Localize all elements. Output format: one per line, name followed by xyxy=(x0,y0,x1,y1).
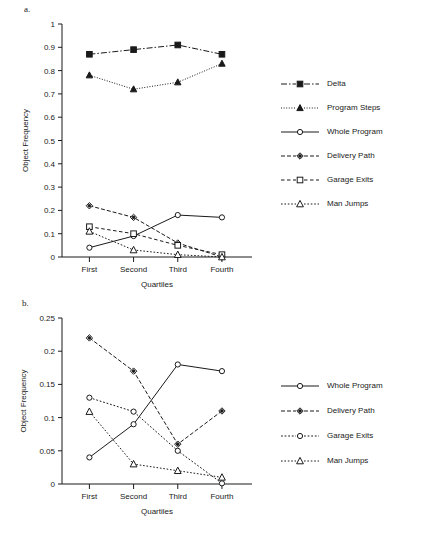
data-series xyxy=(86,60,225,92)
x-axis-title: Quartiles xyxy=(141,280,173,289)
y-axis-tick-label: 0.1 xyxy=(44,230,56,239)
y-axis-tick-label: 0.5 xyxy=(44,137,56,146)
square-filled-marker xyxy=(297,81,303,87)
circle-open-marker xyxy=(219,369,224,374)
y-axis-tick-label: 0.3 xyxy=(44,183,56,192)
y-axis-tick-label: 0.8 xyxy=(44,67,56,76)
data-series xyxy=(87,395,225,486)
y-axis-tick-label: 1 xyxy=(51,20,56,29)
legend-entry: Whole Program xyxy=(281,381,383,390)
series-line-path xyxy=(89,338,222,444)
data-series xyxy=(86,335,225,448)
square-filled-marker xyxy=(219,51,225,57)
x-axis-tick-label: Second xyxy=(120,492,147,501)
x-axis-tick-label: Fourth xyxy=(210,265,233,274)
y-axis-tick-label: 0.15 xyxy=(39,380,55,389)
circle-open-marker xyxy=(87,245,92,250)
legend-entry: Delivery Path xyxy=(281,151,375,160)
y-axis-tick-label: 0 xyxy=(51,480,56,489)
x-axis-tick-label: Fourth xyxy=(210,492,233,501)
series-line-path xyxy=(89,398,222,484)
circle-open-marker xyxy=(219,481,224,486)
diamond-filled-marker xyxy=(175,441,181,447)
legend-label: Delivery Path xyxy=(327,406,375,415)
triangle-open-marker xyxy=(130,246,137,252)
legend-label: Delta xyxy=(327,79,346,88)
square-open-marker xyxy=(131,231,137,237)
y-axis-tick-label: 0.2 xyxy=(44,206,56,215)
panel-b-label: b. xyxy=(22,298,29,308)
x-axis-tick-label: Second xyxy=(120,265,147,274)
circle-open-marker xyxy=(87,455,92,460)
legend-label: Man Jumps xyxy=(327,456,368,465)
triangle-filled-marker xyxy=(130,86,136,92)
y-axis-tick-label: 0.7 xyxy=(44,90,56,99)
triangle-open-marker xyxy=(297,200,304,206)
square-open-marker xyxy=(175,243,181,249)
data-series xyxy=(86,203,225,261)
legend-label: Program Steps xyxy=(327,103,380,112)
legend-label: Garage Exits xyxy=(327,431,373,440)
legend-entry: Man Jumps xyxy=(281,199,368,208)
data-series xyxy=(87,42,225,57)
y-axis-tick-label: 0.4 xyxy=(44,160,56,169)
legend-entry: Program Steps xyxy=(281,103,380,112)
y-axis-title: Object Frequency xyxy=(21,109,30,172)
circle-open-marker xyxy=(297,383,302,388)
legend-entry: Whole Program xyxy=(281,127,383,136)
y-axis-tick-label: 0 xyxy=(51,253,56,262)
diamond-filled-marker xyxy=(130,214,136,220)
triangle-open-marker xyxy=(86,408,93,414)
data-series xyxy=(87,212,225,250)
triangle-filled-marker xyxy=(175,79,181,85)
two-panel-line-chart-figure: a. 00.10.20.30.40.50.60.70.80.91FirstSec… xyxy=(0,0,425,542)
chart-a-svg: 00.10.20.30.40.50.60.70.80.91FirstSecond… xyxy=(0,0,425,290)
series-line-path xyxy=(89,227,222,255)
x-axis-title: Quartiles xyxy=(141,507,173,516)
circle-open-marker xyxy=(175,362,180,367)
series-line-path xyxy=(89,412,222,478)
y-axis-tick-label: 0.6 xyxy=(44,113,56,122)
diamond-filled-marker xyxy=(86,203,92,209)
y-axis-title: Object Frequency xyxy=(19,369,28,432)
panel-a-label: a. xyxy=(24,4,30,14)
triangle-open-marker xyxy=(219,474,226,480)
y-axis-tick-label: 0.9 xyxy=(44,43,56,52)
data-series xyxy=(87,362,225,460)
circle-open-marker xyxy=(131,409,136,414)
triangle-open-marker xyxy=(174,467,181,473)
y-axis-tick-label: 0.1 xyxy=(44,414,56,423)
y-axis-tick-label: 0.05 xyxy=(39,447,55,456)
chart-panel-a: a. 00.10.20.30.40.50.60.70.80.91FirstSec… xyxy=(0,0,425,290)
series-line-path xyxy=(89,64,222,90)
square-filled-marker xyxy=(131,47,137,53)
x-axis-tick-label: First xyxy=(82,492,98,501)
triangle-open-marker xyxy=(297,457,304,463)
chart-b-svg: 00.050.10.150.20.25FirstSecondThirdFourt… xyxy=(0,290,425,542)
data-series xyxy=(86,228,225,260)
series-line-path xyxy=(89,206,222,257)
circle-open-marker xyxy=(175,448,180,453)
legend-entry: Delivery Path xyxy=(281,406,375,415)
circle-open-marker xyxy=(131,422,136,427)
triangle-filled-marker xyxy=(219,60,225,66)
x-axis-tick-label: Third xyxy=(169,492,187,501)
series-line-path xyxy=(89,364,222,457)
x-axis-tick-label: Third xyxy=(169,265,187,274)
legend-label: Whole Program xyxy=(327,127,383,136)
series-line-path xyxy=(89,231,222,257)
y-axis-tick-label: 0.2 xyxy=(44,347,56,356)
x-axis-tick-label: First xyxy=(82,265,98,274)
y-axis-tick-label: 0.25 xyxy=(39,314,55,323)
series-line-path xyxy=(89,45,222,54)
legend-label: Delivery Path xyxy=(327,151,375,160)
circle-open-marker xyxy=(87,395,92,400)
square-filled-marker xyxy=(87,51,93,57)
series-line-path xyxy=(89,215,222,248)
legend-entry: Delta xyxy=(281,79,346,88)
legend-label: Man Jumps xyxy=(327,199,368,208)
legend-entry: Garage Exits xyxy=(281,431,373,440)
triangle-filled-marker xyxy=(297,105,303,111)
circle-open-marker xyxy=(219,215,224,220)
diamond-filled-marker xyxy=(297,153,303,159)
